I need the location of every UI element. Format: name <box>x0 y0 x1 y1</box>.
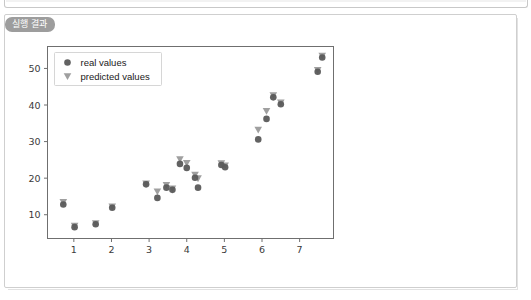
panel-bottom-edge <box>4 0 528 8</box>
result-panel <box>4 14 517 288</box>
tab-execution-result[interactable]: 실행 결과 <box>5 17 55 32</box>
panel-edge-fill <box>6 0 526 2</box>
card-shadow-bottom <box>8 289 518 290</box>
card-shadow-right <box>517 18 518 289</box>
